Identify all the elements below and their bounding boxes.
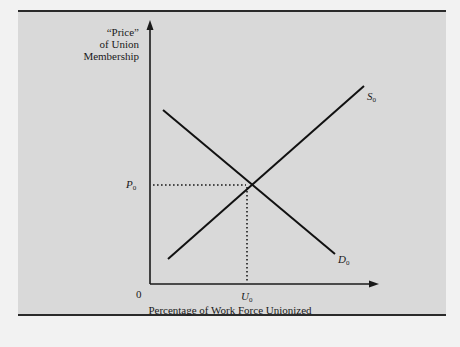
d0-sub: 0 bbox=[346, 259, 350, 267]
u0-sub: 0 bbox=[249, 296, 253, 304]
p0-main: P bbox=[126, 178, 133, 190]
supply-curve-s0 bbox=[168, 86, 364, 259]
s0-curve-label: S0 bbox=[367, 90, 376, 106]
y-axis-label: “Price” of Union Membership bbox=[49, 26, 139, 62]
y-axis-arrow-icon bbox=[147, 20, 154, 30]
p0-sub: 0 bbox=[133, 184, 137, 192]
d0-main: D bbox=[338, 253, 346, 265]
d0-curve-label: D0 bbox=[338, 253, 349, 269]
u0-main: U bbox=[241, 290, 249, 302]
demand-curve-d0 bbox=[163, 110, 335, 254]
origin-label: 0 bbox=[136, 288, 142, 300]
p0-tick-label: P0 bbox=[126, 178, 136, 194]
y-axis-label-line2: of Union bbox=[49, 38, 139, 50]
y-axis-label-line1: “Price” bbox=[49, 26, 139, 38]
s0-sub: 0 bbox=[373, 96, 377, 104]
x-axis-arrow-icon bbox=[369, 281, 379, 288]
x-axis-label: Percentage of Work Force Unionized bbox=[0, 304, 460, 316]
y-axis-label-line3: Membership bbox=[49, 50, 139, 62]
